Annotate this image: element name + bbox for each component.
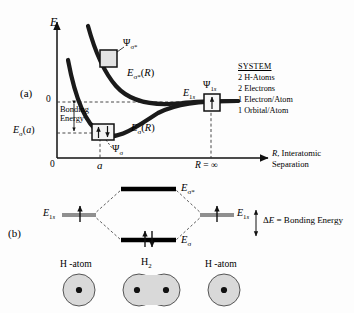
x-axis-label-line2: Separation [272,160,309,169]
molecule-label: H2 [141,257,152,269]
y-axis-label: E [50,16,57,29]
psi-1s-label: Ψ1s [203,80,216,92]
panel-a-label: (a) [20,88,32,100]
correlation-line-left-down [93,215,121,240]
system-legend-item-2: 1 Electron/Atom [238,95,293,106]
molecule-nucleus-left [134,287,140,293]
molecule-nucleus-right [163,287,169,293]
level-sigma-star-label: Eσ* [181,182,195,197]
psi-bonding-label: Ψσ [112,144,123,156]
antibonding-curve-label: Eσ*(R) [127,67,154,82]
y-tick-zero: 0 [46,95,51,105]
atom-left-label: H -atom [60,259,92,269]
system-legend-item-1: 2 Electrons [238,84,293,95]
atom-right-label: H -atom [205,259,237,269]
system-legend-heading: SYSTEM [238,62,293,73]
level-sigma-label: Eσ [181,234,191,249]
level-1s-left-label: E1s [43,208,55,220]
e-1s-label-panel-a: E1s [183,88,195,100]
y-tick-min: Eσ(a) [13,125,34,137]
bonding-curve-label: Eσ(R) [131,122,155,137]
atom-left-nucleus [76,287,82,293]
orbital-box-bonding [92,124,114,140]
orbital-box-antibonding [100,50,117,67]
level-1s-right-label: E1s [237,208,249,220]
x-axis-label-line1: R, Interatomic [272,149,321,158]
x-tick-infinity-label: R = ∞ [195,161,218,171]
atom-right-nucleus [221,287,227,293]
system-legend-item-3: 1 Orbital/Atom [238,106,293,117]
correlation-line-left-up [93,190,121,215]
system-legend-item-0: 2 H-Atoms [238,73,293,84]
system-legend: SYSTEM 2 H-Atoms 2 Electrons 1 Electron/… [238,62,293,117]
psi-antibonding-label: Ψσ* [123,38,137,50]
x-tick-a-label: a [97,160,103,172]
bonding-energy-label-line2: Energy [60,115,84,124]
delta-e-label: ΔE = Bonding Energy [263,216,343,225]
panel-b-label: (b) [8,228,21,240]
figure-root: (a) (b) E 0 Eσ(a) 0 a R = ∞ R, Interatom… [0,0,354,313]
x-origin-label: 0 [50,160,55,170]
